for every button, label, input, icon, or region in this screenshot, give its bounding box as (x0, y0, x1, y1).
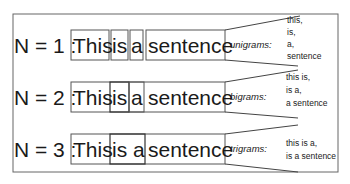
gram-item: is, (287, 27, 296, 37)
ngram-diagram: N = 1 : This is a sentence unigrams: thi… (0, 0, 350, 184)
word-sentence: sentence (148, 138, 233, 161)
fan-line-bottom (225, 112, 298, 118)
kind-label: unigrams: (230, 39, 272, 50)
fan-line-top (225, 125, 298, 134)
n-label: N = 1 : (14, 34, 76, 57)
word-sentence: sentence (148, 34, 233, 57)
gram-item: a, (287, 39, 294, 49)
word-a: a (131, 86, 143, 109)
n-label: N = 2 : (14, 86, 76, 109)
word-is-a: is a (112, 138, 145, 161)
word-this: This (73, 86, 113, 109)
gram-item: sentence (287, 51, 322, 61)
word-a: a (131, 34, 143, 57)
row-unigrams: N = 1 : This is a sentence unigrams: thi… (14, 15, 322, 66)
word-this: This (73, 34, 113, 57)
word-is: is (112, 34, 127, 57)
gram-item: this is, (286, 72, 310, 82)
word-sentence: sentence (148, 86, 233, 109)
word-this: This (73, 138, 113, 161)
row-trigrams: N = 3 : This is a sentence trigrams: thi… (14, 125, 336, 172)
gram-item: is a sentence (286, 151, 336, 161)
word-is: is (112, 86, 127, 109)
fan-line-bottom (225, 164, 298, 172)
gram-item: this is a, (286, 138, 317, 148)
kind-label: trigrams: (230, 143, 267, 154)
row-bigrams: N = 2 : This is a sentence bigrams: this… (14, 70, 328, 118)
gram-item: a sentence (286, 98, 328, 108)
gram-item: is a, (286, 85, 302, 95)
kind-label: bigrams: (230, 91, 267, 102)
n-label: N = 3 : (14, 138, 76, 161)
gram-item: this, (287, 15, 303, 25)
